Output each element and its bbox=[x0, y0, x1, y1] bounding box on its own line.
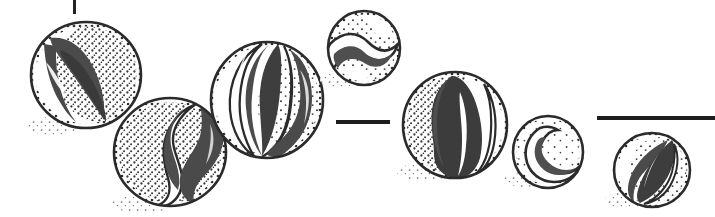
figure-svg bbox=[0, 0, 715, 217]
figure-illustration bbox=[0, 0, 715, 217]
cell-3 bbox=[211, 42, 326, 158]
top-tick-mark bbox=[73, 0, 76, 14]
